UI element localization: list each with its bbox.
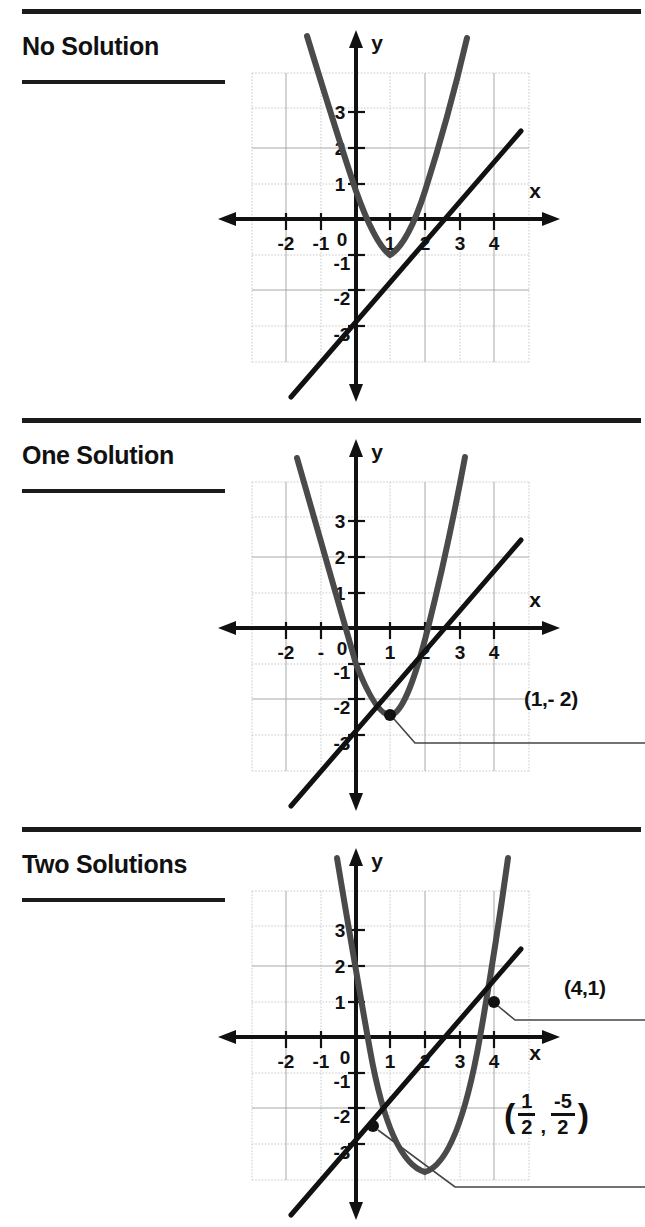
linear-line bbox=[291, 131, 521, 397]
linear-line bbox=[291, 949, 521, 1215]
y-axis-arrow-up bbox=[349, 30, 363, 48]
x-tick-label: 4 bbox=[489, 233, 500, 254]
x-axis-arrow-right bbox=[542, 621, 560, 635]
graph-no-solution: -2 -1 0 1 2 3 4 3 2 1 -1 -2 -3 x y bbox=[190, 14, 645, 404]
x-axis-label: x bbox=[529, 588, 541, 611]
panel-two-solutions: Two Solutions bbox=[0, 818, 645, 1227]
y-axis-label: y bbox=[371, 31, 383, 54]
parabola-curve bbox=[297, 457, 465, 715]
y-tick-label: 1 bbox=[335, 174, 346, 195]
open-paren: ( bbox=[504, 1098, 515, 1132]
y-axis-arrow-up bbox=[349, 848, 363, 866]
close-paren: ) bbox=[578, 1098, 589, 1132]
y-axis-label: y bbox=[371, 440, 383, 463]
y-tick-label: 3 bbox=[335, 920, 346, 941]
intersection-point bbox=[367, 1120, 379, 1132]
panel-no-solution: No Solution bbox=[0, 0, 645, 409]
comma: , bbox=[538, 1116, 548, 1136]
y-tick-label: -2 bbox=[334, 288, 351, 309]
panel-title: One Solution bbox=[22, 441, 174, 470]
y-axis-arrow-down bbox=[349, 1202, 363, 1220]
x-axis-arrow-left bbox=[218, 212, 236, 226]
y-tick-label: 3 bbox=[335, 511, 346, 532]
x-tick-label: -2 bbox=[278, 642, 295, 663]
x-tick-label: 3 bbox=[455, 642, 466, 663]
panel-one-solution: One Solution bbox=[0, 409, 645, 818]
axes bbox=[226, 449, 545, 801]
x-axis-arrow-right bbox=[542, 212, 560, 226]
x-axis-arrow-left bbox=[218, 621, 236, 635]
x-tick-label: 1 bbox=[385, 642, 396, 663]
x-tick-label: -2 bbox=[278, 1051, 295, 1072]
callout-leader bbox=[498, 1006, 645, 1020]
origin-label: 0 bbox=[340, 1047, 351, 1068]
axes bbox=[226, 40, 545, 392]
y-tick-label: -2 bbox=[334, 697, 351, 718]
graph-two-solutions: -2 -1 0 1 2 3 4 3 2 1 -1 -2 -3 x y bbox=[190, 832, 645, 1222]
callout-label-fraction: ( 1 2 , -5 2 ) bbox=[504, 1091, 589, 1138]
y-axis-arrow-up bbox=[349, 439, 363, 457]
y-tick-label: -1 bbox=[334, 253, 351, 274]
y-axis-arrow-down bbox=[349, 384, 363, 402]
numerator: -5 bbox=[551, 1091, 575, 1112]
x-axis-arrow-right bbox=[542, 1030, 560, 1044]
y-axis-label: y bbox=[371, 849, 383, 872]
y-tick-label: 2 bbox=[335, 956, 346, 977]
denominator: 2 bbox=[554, 1117, 571, 1138]
panel-title: No Solution bbox=[22, 32, 159, 61]
x-tick-label: -1 bbox=[313, 233, 330, 254]
axes bbox=[226, 858, 545, 1210]
callout-leader bbox=[378, 1130, 645, 1187]
graph-one-solution: -2 - 0 1 2 3 4 3 2 1 -1 -2 -3 x y bbox=[190, 423, 645, 813]
x-tick-label: 3 bbox=[455, 233, 466, 254]
linear-line bbox=[291, 540, 521, 806]
y-tick-label: 2 bbox=[335, 547, 346, 568]
fraction-one-half: 1 2 bbox=[518, 1091, 535, 1138]
y-axis-arrow-down bbox=[349, 793, 363, 811]
origin-label: 0 bbox=[337, 638, 348, 659]
x-tick-label: 3 bbox=[455, 1051, 466, 1072]
y-tick-label: 1 bbox=[335, 992, 346, 1013]
y-tick-label: 3 bbox=[335, 102, 346, 123]
y-tick-label: -1 bbox=[334, 662, 351, 683]
x-tick-label: -1 bbox=[313, 1051, 330, 1072]
y-tick-label: -2 bbox=[334, 1106, 351, 1127]
fraction-neg-five-halves: -5 2 bbox=[551, 1091, 575, 1138]
callout-label-1-neg2: (1,- 2) bbox=[524, 687, 578, 711]
panel-title: Two Solutions bbox=[22, 850, 187, 879]
x-tick-label: 4 bbox=[489, 642, 500, 663]
callout-leader bbox=[394, 719, 645, 743]
x-axis-label: x bbox=[529, 1041, 541, 1064]
origin-label: 0 bbox=[337, 229, 348, 250]
callout-label-4-1: (4,1) bbox=[564, 976, 606, 1000]
x-tick-label: - bbox=[318, 642, 324, 663]
y-tick-label: -1 bbox=[334, 1071, 351, 1092]
x-axis-arrow-left bbox=[218, 1030, 236, 1044]
x-tick-label: -2 bbox=[278, 233, 295, 254]
denominator: 2 bbox=[518, 1117, 535, 1138]
x-axis-label: x bbox=[529, 179, 541, 202]
numerator: 1 bbox=[518, 1091, 535, 1112]
x-tick-label: 1 bbox=[385, 1051, 396, 1072]
parabola-curve bbox=[337, 858, 508, 1172]
x-tick-label: 4 bbox=[489, 1051, 500, 1072]
